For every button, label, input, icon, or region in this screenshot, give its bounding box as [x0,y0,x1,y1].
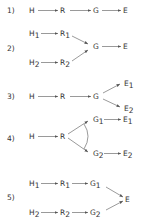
node-r1: R1 [60,29,70,40]
arrow-r-g2 [68,138,88,152]
diagram-3-label: 3) [7,92,15,101]
arrow-g2-e [106,201,123,210]
arrow-r1-g [72,36,88,44]
node-e2: E2 [123,149,133,160]
arrow-r-g1 [68,121,88,134]
node-e1: E1 [124,79,134,90]
node-g2: G2 [90,208,101,217]
node-r2: R2 [60,58,70,69]
node-g: G [93,92,99,101]
node-r: R [60,92,65,101]
node-e: E [125,195,130,204]
node-r: R [60,6,65,15]
node-r2: R2 [60,208,70,217]
node-e2: E2 [124,104,134,115]
node-g1: G1 [93,115,104,126]
diagram-5: 5) H1 R1 G1 H2 R2 G2 E [7,179,130,217]
diagram-1-label: 1) [7,6,15,15]
node-h1: H1 [29,29,40,40]
arrow-g-e2 [103,99,120,107]
node-h: H [29,92,35,101]
node-g: G [93,42,99,51]
node-r1: R1 [60,179,70,190]
diagram-3: 3) H R G E1 E2 [7,79,134,115]
node-h: H [29,6,35,15]
diagram-4-label: 4) [7,134,15,143]
diagram-5-label: 5) [7,193,15,202]
arrow-g-e1 [103,84,120,93]
diagram-2: 2) H1 R1 H2 R2 G E [7,29,128,69]
causal-chain-diagrams: 1) H R G E 2) H1 R1 H2 R2 G E 3) H R G E… [0,0,143,217]
node-e: E [123,6,128,15]
node-g1: G1 [90,179,101,190]
arrow-g1-e [106,187,123,197]
diagram-4: 4) H R G1 E1 G2 E2 [7,115,133,160]
node-h2: H2 [29,58,40,69]
arc-annotation [84,124,88,149]
node-e1: E1 [123,115,133,126]
node-h: H [29,132,35,141]
node-e: E [123,42,128,51]
arrow-r2-g [72,50,88,61]
diagram-2-label: 2) [7,44,15,53]
node-h1: H1 [29,179,40,190]
node-r: R [60,132,65,141]
node-h2: H2 [29,208,40,217]
node-g2: G2 [93,149,104,160]
node-g: G [93,6,99,15]
diagram-1: 1) H R G E [7,6,128,15]
